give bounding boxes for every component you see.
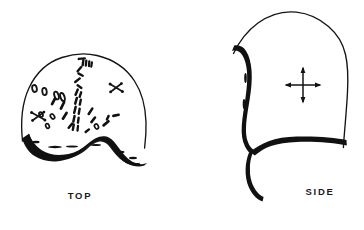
hand-drawn-figure: TOP	[0, 0, 364, 230]
side-view-caption: SIDE	[306, 186, 335, 197]
illustration-canvas: TOP	[0, 0, 364, 230]
top-view-caption: TOP	[68, 190, 92, 201]
